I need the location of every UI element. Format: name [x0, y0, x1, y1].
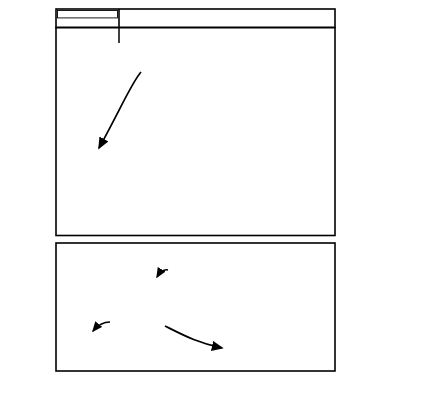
bp-annotation-arrow [99, 72, 141, 148]
period-header-bar [56, 9, 335, 28]
urinary-chloride-annotation-arrows [93, 322, 222, 348]
bp-panel-frame [56, 28, 335, 236]
kempner-blood-pressure-figure [0, 0, 424, 411]
body-weight-annotation-arrow [157, 270, 168, 277]
lower-panel-frame [56, 243, 335, 371]
figure-caption-fragment [14, 398, 414, 407]
